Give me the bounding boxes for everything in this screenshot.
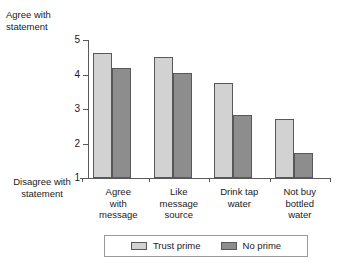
legend-entry: Trust prime	[131, 241, 201, 251]
legend-label: No prime	[243, 241, 282, 251]
x-tick-mark	[82, 178, 83, 182]
bar-no-prime	[173, 73, 192, 178]
bar-trust-prime	[93, 53, 112, 178]
y-tick-label: 1	[66, 173, 80, 183]
x-category-label: Like message source	[149, 186, 210, 221]
bar-no-prime	[294, 153, 313, 178]
y-tick-label: 3	[66, 104, 80, 114]
x-category-label: Drink tap water	[209, 186, 270, 209]
x-tick-mark	[209, 178, 210, 182]
x-category-label: Agree with message	[88, 186, 149, 221]
x-tick-mark	[149, 178, 150, 182]
bar-trust-prime	[214, 83, 233, 178]
chart-legend: Trust primeNo prime	[104, 235, 308, 257]
y-tick-label: 5	[66, 35, 80, 45]
bar-no-prime	[233, 115, 252, 178]
legend-swatch-dark	[221, 242, 237, 250]
legend-swatch-light	[131, 242, 147, 250]
y-tick-mark	[83, 178, 88, 179]
legend-entry: No prime	[221, 241, 282, 251]
plot-area	[88, 40, 330, 178]
x-axis-line	[80, 178, 330, 179]
legend-label: Trust prime	[153, 241, 201, 251]
y-axis-top-label: Agree with statement	[6, 9, 82, 32]
bar-chart-figure: Agree with statement Disagree with state…	[0, 0, 338, 269]
bar-trust-prime	[275, 119, 294, 178]
x-tick-mark	[330, 178, 331, 182]
bar-trust-prime	[154, 57, 173, 178]
y-tick-label: 2	[66, 139, 80, 149]
y-tick-label: 4	[66, 70, 80, 80]
x-category-label: Not buy bottled water	[270, 186, 331, 221]
bar-no-prime	[112, 68, 131, 178]
x-tick-mark	[270, 178, 271, 182]
